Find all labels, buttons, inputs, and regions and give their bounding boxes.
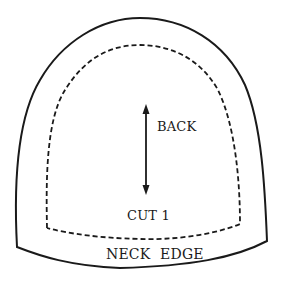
cut-instruction-label: CUT 1 [127, 208, 170, 223]
neck-edge-label: NECK EDGE [106, 246, 204, 262]
grainline-arrow-icon [143, 104, 150, 195]
grainline-label: BACK [157, 119, 196, 134]
pattern-piece-diagram [0, 0, 282, 285]
